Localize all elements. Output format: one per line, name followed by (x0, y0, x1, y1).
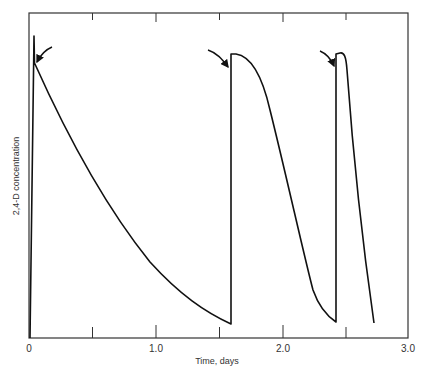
concentration-curve (30, 36, 374, 338)
x-tick-label-0: 0 (26, 343, 32, 354)
application-arrow-icon-1 (37, 47, 52, 62)
x-tick-label-1: 1.0 (149, 343, 163, 354)
application-arrow-icon-3 (320, 51, 334, 66)
x-axis-ticks (93, 325, 347, 338)
application-arrow-icon-2 (208, 50, 228, 67)
x-tick-label-3: 3.0 (401, 343, 415, 354)
x-axis-title: Time, days (195, 356, 239, 366)
y-axis-title: 2,4-D concentration (11, 137, 21, 216)
top-axis-ticks (93, 13, 347, 22)
plot-frame (29, 13, 408, 338)
chart-canvas: 0 1.0 2.0 3.0 Time, days 2,4-D concentra… (0, 0, 426, 371)
x-tick-label-2: 2.0 (276, 343, 290, 354)
